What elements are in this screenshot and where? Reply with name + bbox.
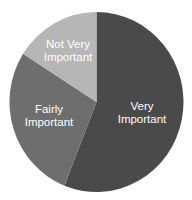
pie-chart: Very Important Fairly Important Not Very… — [0, 0, 192, 200]
label-notvery-line1: Not Very — [46, 38, 90, 50]
label-fairly-line1: Fairly — [35, 103, 63, 115]
pie-slices — [10, 12, 184, 192]
label-very-line1: Very — [130, 100, 153, 112]
label-notvery-line2: Important — [44, 51, 93, 63]
label-fairly-line2: Important — [25, 116, 74, 128]
slice-label-not-very-important: Not Very Important — [44, 38, 93, 63]
label-very-line2: Important — [118, 113, 167, 125]
